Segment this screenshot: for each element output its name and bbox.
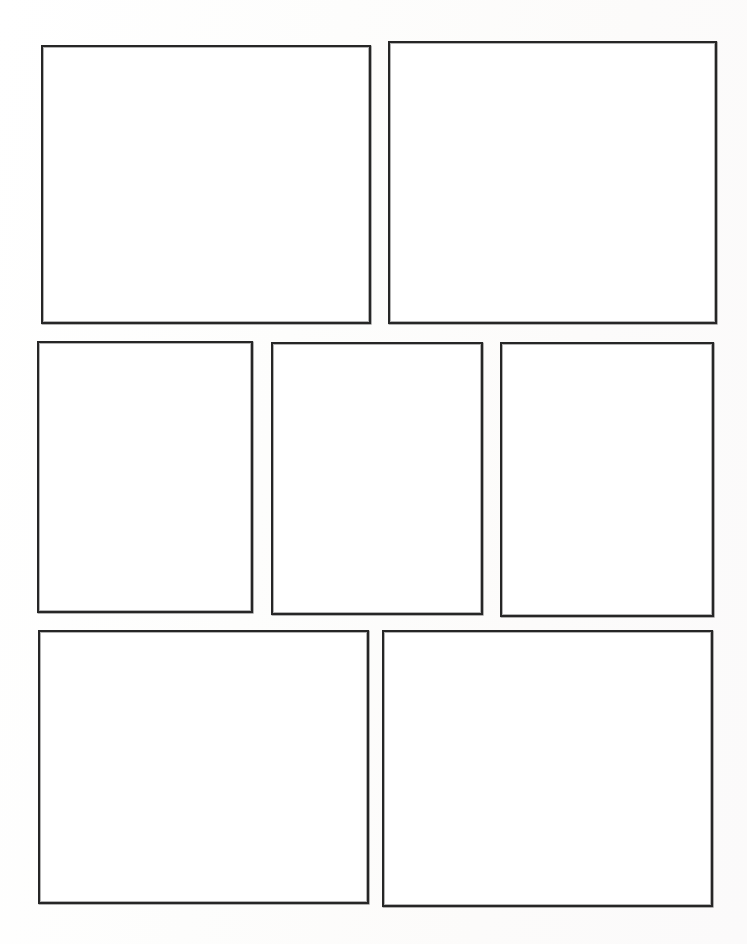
comic-panel-3[interactable]: Panel 3 — [37, 341, 253, 613]
comic-panel-4[interactable]: Panel 4 — [271, 342, 483, 615]
comic-panel-6[interactable]: Panel 6 — [38, 630, 369, 904]
comic-page: Panel 1 Panel 2 Panel 3 Panel 4 Panel 5 … — [0, 0, 747, 944]
comic-panel-2[interactable]: Panel 2 — [388, 41, 717, 324]
comic-panel-7[interactable]: Panel 7 — [382, 630, 713, 907]
comic-panel-1[interactable]: Panel 1 — [41, 45, 371, 324]
comic-panel-5[interactable]: Panel 5 — [500, 342, 714, 617]
